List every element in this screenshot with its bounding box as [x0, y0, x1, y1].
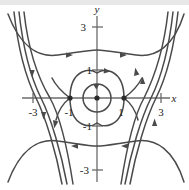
x-tick-label--1: -1: [64, 106, 73, 118]
y-tick-label--1: -1: [83, 120, 92, 132]
arrow-right-branch-lower: [152, 119, 157, 127]
y-tick-label-1: 1: [87, 64, 93, 76]
x-tick-label-3: 3: [158, 106, 164, 118]
arrow-closed-orbit: [93, 84, 100, 90]
y-axis-label: y: [94, 3, 100, 15]
phase-portrait-figure: x y -3 -1 1 3 3 1 -1 -3: [0, 0, 189, 190]
y-tick-label-3: 3: [81, 21, 87, 33]
phase-portrait-plot: x y -3 -1 1 3 3 1 -1 -3: [0, 0, 189, 190]
curve-saddle-right-upper-connector: [124, 78, 142, 98]
arrow-lower-outer-left: [121, 144, 128, 149]
arrow-left-branch-lower: [41, 112, 46, 120]
flow-arrows: [30, 53, 158, 149]
y-tick-label--3: -3: [80, 164, 90, 176]
x-axis-label: x: [171, 92, 177, 104]
arrow-left-branch-inner: [53, 120, 58, 128]
equilibrium-point-saddle-right: [121, 95, 126, 100]
curve-lower-outer-orbit: [8, 141, 184, 182]
arrow-lower-outer-right: [71, 144, 78, 149]
x-tick-label--3: -3: [28, 106, 38, 118]
curve-saddle-left-upper-connector: [52, 78, 70, 98]
arrow-left-branch-upper: [30, 70, 35, 78]
equilibrium-point-saddle-left: [67, 95, 72, 100]
curve-upper-outer-orbit: [8, 14, 184, 55]
x-tick-label-1: 1: [118, 106, 124, 118]
equilibrium-point-center-origin: [94, 95, 99, 100]
arrow-right-branch-inner: [134, 68, 139, 76]
